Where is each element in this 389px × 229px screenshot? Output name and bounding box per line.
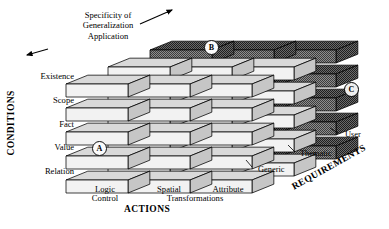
requirement-tick-user: User	[345, 131, 361, 140]
caption-line-2: Generalization	[61, 20, 155, 30]
action-tick-logic-control: Logic Control	[81, 185, 129, 203]
actions-axis-title: ACTIONS	[124, 205, 170, 215]
caption-specificity: Specificity of Generalization Applicatio…	[61, 10, 155, 41]
condition-tick-existence: Existence	[14, 72, 74, 81]
requirement-tick-thematic: Thematic	[300, 150, 332, 159]
diagram-canvas: Specificity of Generalization Applicatio…	[0, 0, 389, 229]
condition-tick-fact: Fact	[14, 120, 74, 129]
condition-tick-scope: Scope	[14, 96, 74, 105]
marker-a[interactable]: A	[92, 141, 107, 156]
action-tick-transformations: Transformations	[150, 194, 240, 203]
action-tick-line-2: Control	[81, 194, 129, 203]
marker-c[interactable]: C	[344, 82, 359, 97]
arrow-down-left-icon	[27, 49, 48, 55]
condition-tick-value: Value	[14, 143, 74, 152]
caption-line-3: Application	[61, 31, 155, 41]
caption-line-1: Specificity of	[61, 10, 155, 20]
condition-tick-relation: Relation	[14, 167, 74, 176]
marker-b[interactable]: B	[204, 40, 219, 55]
requirement-tick-generic: Generic	[258, 166, 285, 175]
